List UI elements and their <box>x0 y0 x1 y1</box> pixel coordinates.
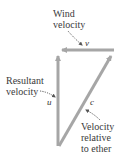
vector-v-label: v⃗ <box>85 38 96 48</box>
resultant-label-line1: Resultant <box>6 75 44 86</box>
vector-u-label: u⃗ <box>47 97 59 107</box>
wind-label-line2: velocity <box>53 19 85 30</box>
resultant-label-line2: velocity <box>6 86 38 97</box>
ether-label-line1: Velocity <box>81 121 114 132</box>
vector-c-label: c⃗ <box>90 97 101 107</box>
wind-pointer <box>68 31 82 45</box>
ether-pointer <box>86 110 100 120</box>
wind-label-line1: Wind <box>53 8 75 19</box>
ether-label-line2: relative <box>81 132 111 143</box>
ether-label-line3: to ether <box>81 143 111 154</box>
